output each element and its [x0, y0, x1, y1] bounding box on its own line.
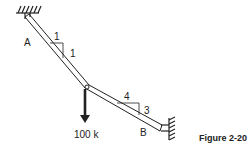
support-b-wall-icon [161, 117, 175, 140]
support-a-ceiling-icon [16, 6, 41, 19]
load-arrow-icon [80, 89, 90, 123]
slope2-rise-label: 3 [144, 105, 150, 116]
slope-triangle-1 [50, 43, 63, 58]
load-label: 100 k [74, 129, 99, 140]
label-b: B [140, 127, 147, 138]
frame-diagram: 1 1 4 3 100 k A B Figure 2-20 [0, 0, 249, 155]
slope1-rise-label: 1 [70, 48, 76, 59]
knee-joint [85, 85, 89, 89]
slope2-run-label: 4 [124, 91, 130, 102]
member-a [25, 14, 89, 88]
slope1-run-label: 1 [54, 31, 60, 42]
label-a: A [24, 37, 31, 48]
figure-caption: Figure 2-20 [199, 133, 247, 143]
